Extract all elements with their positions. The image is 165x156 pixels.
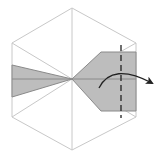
left-triangular-flap [12, 65, 72, 97]
origami-diagram [0, 0, 165, 156]
